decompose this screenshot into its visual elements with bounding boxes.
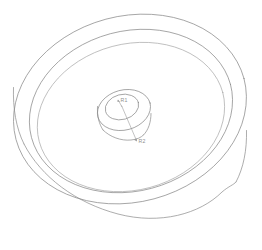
- radius-callout-outer-label: R2: [139, 138, 146, 144]
- radius-callout-inner: R1: [117, 97, 127, 108]
- outer-rim-side-wall: [13, 88, 246, 219]
- radius-callout-outer: R2: [122, 106, 146, 144]
- technical-drawing-canvas: R1 R2: [0, 0, 262, 250]
- wheel-wireframe-svg: R1 R2: [0, 0, 262, 250]
- outer-rim-top-ellipse: [0, 0, 262, 229]
- radius-callout-inner-label: R1: [121, 97, 128, 103]
- recess-upper-ellipse: [11, 7, 251, 215]
